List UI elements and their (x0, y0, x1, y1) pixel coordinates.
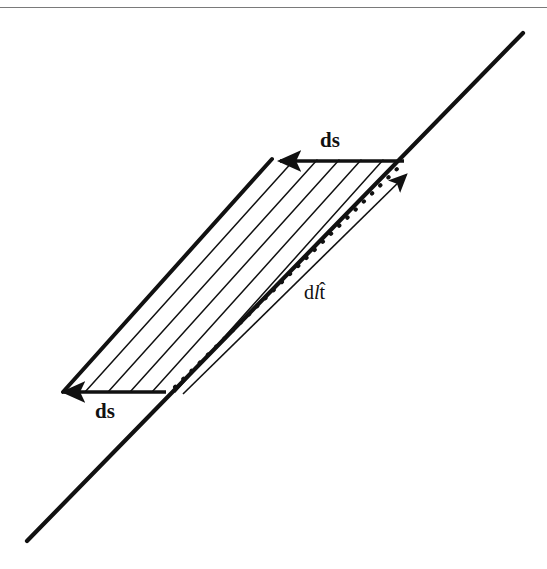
figure-page: ds ds dlt̂ (0, 0, 547, 569)
ds-label-bottom: ds (95, 399, 115, 423)
hatch-line-group (85, 160, 383, 392)
dl-t-hat-prefix: d (304, 281, 314, 303)
hatch-line (152, 160, 361, 392)
hatch-line (85, 160, 294, 392)
line-element-diagram: ds ds dlt̂ (0, 0, 547, 569)
dl-t-hat-label: dlt̂ (304, 281, 326, 303)
hatch-line (175, 160, 383, 392)
ds-label-top: ds (320, 128, 340, 152)
dl-t-hat-unit-vector: t̂ (318, 281, 326, 303)
hatch-line (130, 160, 339, 392)
parallelogram-left-edge (63, 159, 272, 392)
dl-t-hat-arrow (183, 175, 406, 394)
inclined-baseline (27, 33, 523, 541)
